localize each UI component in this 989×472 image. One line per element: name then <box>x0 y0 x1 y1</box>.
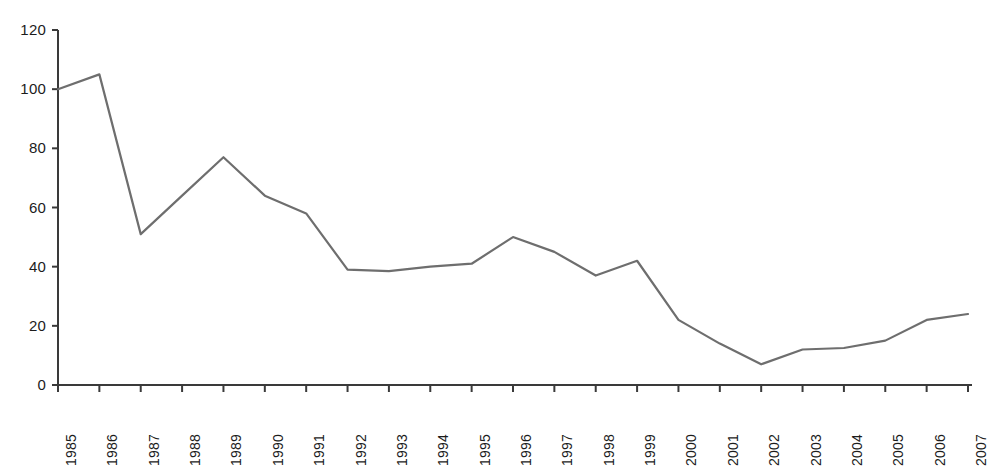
x-tick-label: 2003 <box>809 434 823 466</box>
x-tick-label: 1985 <box>64 434 78 466</box>
x-axis-ticks <box>58 385 968 392</box>
y-tick-label: 80 <box>2 140 46 155</box>
x-tick-label: 1999 <box>643 434 657 466</box>
axis-lines <box>58 30 972 385</box>
x-tick-label: 1995 <box>478 434 492 466</box>
x-tick-label: 2000 <box>684 434 698 466</box>
data-series-line <box>58 74 968 364</box>
plot-area <box>0 0 989 472</box>
x-tick-label: 2006 <box>933 434 947 466</box>
x-tick-label: 2004 <box>850 434 864 466</box>
x-tick-label: 2005 <box>891 434 905 466</box>
x-tick-label: 1996 <box>519 434 533 466</box>
x-tick-label: 2001 <box>726 434 740 466</box>
x-tick-label: 2002 <box>767 434 781 466</box>
x-tick-label: 1993 <box>395 434 409 466</box>
line-chart: 020406080100120 198519861987198819891990… <box>0 0 989 472</box>
y-tick-label: 60 <box>2 200 46 215</box>
x-tick-label: 1991 <box>312 434 326 466</box>
x-tick-label: 1988 <box>188 434 202 466</box>
y-tick-label: 20 <box>2 318 46 333</box>
x-tick-label: 1986 <box>105 434 119 466</box>
x-tick-label: 1989 <box>229 434 243 466</box>
y-tick-label: 0 <box>2 377 46 392</box>
x-tick-label: 1990 <box>271 434 285 466</box>
x-tick-label: 1997 <box>560 434 574 466</box>
x-tick-label: 1987 <box>147 434 161 466</box>
y-tick-label: 40 <box>2 259 46 274</box>
x-tick-label: 1998 <box>602 434 616 466</box>
x-tick-label: 1992 <box>354 434 368 466</box>
y-tick-label: 100 <box>2 81 46 96</box>
x-tick-label: 2007 <box>974 434 988 466</box>
y-tick-label: 120 <box>2 22 46 37</box>
x-tick-label: 1994 <box>436 434 450 466</box>
